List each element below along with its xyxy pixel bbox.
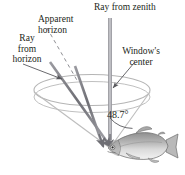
ray-from-zenith-line [109, 18, 112, 147]
fish-adipose-fin [158, 132, 165, 134]
label-ray-from-zenith: Ray from zenith [94, 2, 184, 13]
label-angle-value: 48.7° [107, 110, 141, 121]
cone-rim-upper-ellipse [34, 75, 150, 106]
ray-secondary-line [75, 66, 104, 147]
fish-icon [108, 127, 178, 163]
cone-rim-lower-ellipse [34, 82, 150, 113]
fish-dorsal-fin [136, 127, 152, 133]
label-ray-from-horizon: Ray from horizon [2, 33, 52, 65]
label-windows-center: Window's center [110, 46, 172, 67]
refraction-diagram: Ray from zenith Apparent horizon Ray fro… [0, 0, 185, 175]
fish-pupil [111, 146, 113, 148]
cone-left-edge [34, 92, 110, 148]
label-apparent-horizon: Apparent horizon [38, 14, 96, 35]
ray-secondary-segment [75, 66, 103, 146]
